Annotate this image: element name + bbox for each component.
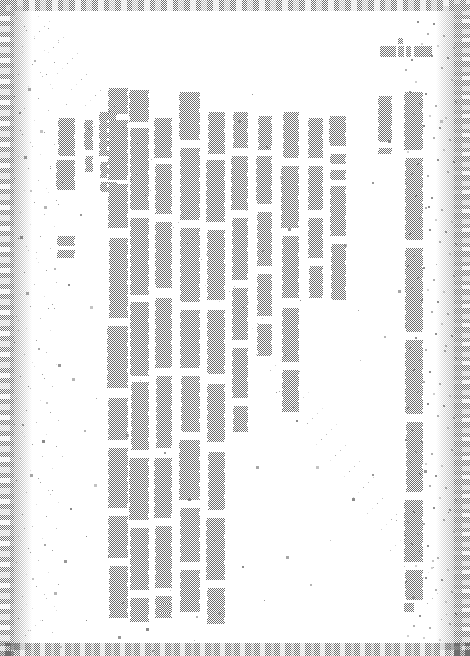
text-column-segment (130, 218, 149, 295)
footer-mark-1 (134, 604, 146, 613)
speckle (58, 204, 59, 205)
speckle (50, 248, 51, 249)
speckle (425, 207, 427, 209)
speckle (449, 623, 451, 625)
speckle (77, 53, 78, 54)
speckle (58, 420, 59, 421)
speckle (44, 378, 45, 379)
speckle (66, 104, 67, 105)
speckle (455, 243, 457, 245)
speckle (95, 95, 96, 96)
speckle (433, 23, 435, 25)
speckle (30, 224, 31, 225)
speckle (443, 149, 445, 151)
speckle (44, 50, 45, 51)
speckle (18, 320, 19, 321)
text-column-segment (108, 448, 128, 508)
speckle (86, 74, 87, 75)
speckle (353, 497, 354, 498)
speckle (445, 345, 447, 347)
speckle (429, 115, 431, 117)
speckle (409, 91, 411, 93)
speckle (38, 16, 39, 17)
speckle (404, 566, 405, 567)
speckle (427, 175, 429, 177)
text-column-segment (57, 250, 75, 258)
speckle (54, 606, 55, 607)
speckle (38, 560, 39, 561)
text-column-segment (155, 526, 172, 588)
speckle (53, 47, 54, 48)
speckle (26, 246, 27, 247)
speckle (26, 492, 27, 493)
speckle (407, 635, 409, 637)
speckle (441, 323, 443, 325)
speckle (423, 267, 425, 269)
speckle (28, 250, 29, 251)
speckle (453, 417, 455, 419)
speckle (435, 219, 437, 221)
speckle (18, 618, 19, 619)
speckle (50, 494, 51, 495)
speckle (44, 544, 46, 546)
speckle (40, 72, 41, 73)
text-column-segment (154, 118, 172, 158)
speckle (214, 540, 215, 541)
text-column-segment (258, 116, 272, 150)
speckle (276, 392, 277, 393)
text-column-segment (257, 212, 272, 266)
speckle (443, 405, 445, 407)
speckle (413, 625, 415, 627)
speckle (447, 313, 449, 315)
text-column-col-8 (207, 112, 225, 624)
speckle (86, 536, 87, 537)
speckle (26, 30, 27, 31)
speckle (421, 441, 423, 443)
speckle (44, 214, 45, 215)
speckle (54, 226, 55, 227)
speckle (419, 615, 421, 617)
speckle (113, 137, 114, 138)
speckle (431, 311, 433, 313)
speckle (395, 545, 396, 546)
speckle (28, 88, 31, 91)
speckle (48, 52, 49, 53)
scan-border-left-fade (10, 6, 32, 650)
speckle (415, 451, 417, 453)
speckle (429, 229, 431, 231)
speckle (122, 602, 124, 604)
speckle (118, 636, 121, 639)
speckle (349, 471, 350, 472)
text-column-col-4 (108, 88, 128, 618)
speckle (405, 183, 407, 185)
speckle (58, 122, 59, 123)
speckle (187, 243, 188, 244)
speckle (118, 132, 119, 133)
speckle (100, 90, 101, 91)
speckle (56, 446, 57, 447)
speckle (439, 639, 441, 641)
speckle (435, 333, 437, 335)
speckle (419, 103, 421, 105)
speckle (429, 371, 431, 373)
speckle (413, 113, 415, 115)
speckle (201, 259, 202, 260)
speckle (425, 349, 427, 351)
speckle (429, 485, 431, 487)
speckle (84, 430, 86, 432)
speckle (72, 58, 73, 59)
speckle (38, 180, 39, 181)
speckle (433, 393, 435, 395)
speckle (46, 516, 47, 517)
speckle (384, 336, 386, 338)
speckle (441, 619, 442, 620)
text-column-segment (108, 398, 128, 440)
speckle (243, 307, 244, 308)
text-column-segment (155, 222, 172, 288)
speckle (433, 567, 434, 568)
speckle (22, 52, 23, 53)
speckle (425, 463, 427, 465)
speckle (140, 380, 141, 381)
speckle (437, 301, 439, 303)
speckle (155, 185, 156, 186)
